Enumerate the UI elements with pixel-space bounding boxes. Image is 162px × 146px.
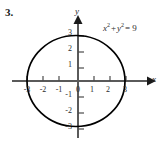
- x-tick-label: -3: [20, 85, 34, 94]
- y-axis-arrowhead-icon: [74, 15, 83, 24]
- y-tick-label: 2: [56, 44, 72, 53]
- x-tick-label: -2: [36, 85, 50, 94]
- x-tick-label: 1: [85, 85, 99, 94]
- y-tick-label: 3: [56, 28, 72, 37]
- y-tick-label: -2: [56, 106, 72, 115]
- math-figure-circle: 3. x2+y2=9: [0, 0, 162, 146]
- y-axis-label: y: [75, 6, 79, 16]
- y-tick-label: 1: [56, 60, 72, 69]
- x-tick-label: 2: [101, 85, 115, 94]
- coordinate-plane-svg: [0, 0, 162, 146]
- x-tick-label: 3: [118, 85, 132, 94]
- x-tick-label-origin: 0: [71, 85, 85, 94]
- y-tick-label: -1: [56, 90, 72, 99]
- x-axis-label: x: [152, 74, 156, 84]
- y-tick-label: -3: [56, 122, 72, 131]
